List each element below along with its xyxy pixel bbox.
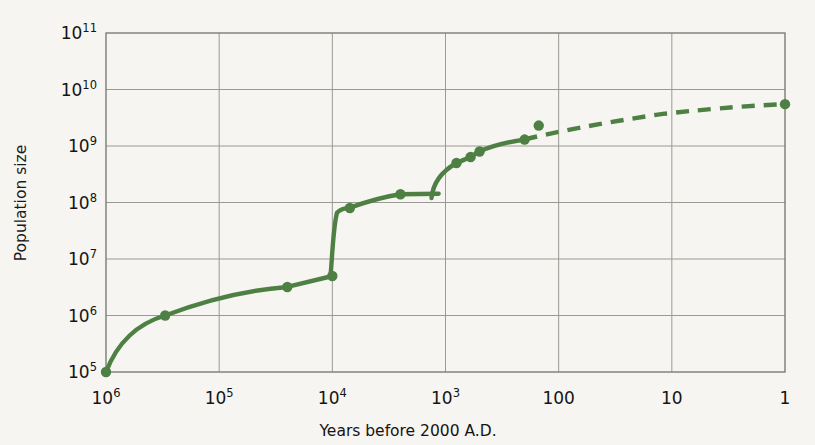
data-point-marker bbox=[534, 120, 544, 130]
x-axis-title: Years before 2000 A.D. bbox=[318, 422, 496, 440]
svg-text:10: 10 bbox=[661, 388, 683, 408]
population-growth-chart: 10111010109108107106105 1061051041031001… bbox=[0, 0, 815, 445]
data-point-marker bbox=[101, 367, 111, 377]
svg-text:100: 100 bbox=[542, 388, 574, 408]
data-point-marker bbox=[395, 189, 405, 199]
y-axis-title: Population size bbox=[12, 145, 30, 261]
chart-background bbox=[0, 0, 815, 445]
data-point-marker bbox=[345, 203, 355, 213]
data-point-marker bbox=[160, 310, 170, 320]
svg-text:1: 1 bbox=[780, 388, 791, 408]
data-point-marker bbox=[282, 282, 292, 292]
data-point-marker bbox=[780, 99, 790, 109]
data-point-marker bbox=[327, 271, 337, 281]
data-point-marker bbox=[474, 146, 484, 156]
data-point-marker bbox=[451, 158, 461, 168]
chart-canvas: 10111010109108107106105 1061051041031001… bbox=[0, 0, 815, 445]
data-point-marker bbox=[519, 134, 529, 144]
data-point-marker bbox=[465, 152, 475, 162]
